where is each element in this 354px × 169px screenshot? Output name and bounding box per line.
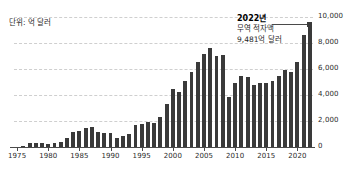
annotation-label: 무역 적자액 bbox=[237, 24, 309, 35]
x-tick-label-1980: 1980 bbox=[39, 153, 57, 160]
x-tick-mark-2010 bbox=[235, 148, 236, 151]
bar-2014 bbox=[258, 83, 262, 147]
bar-2011 bbox=[239, 76, 243, 147]
bar-1991 bbox=[115, 138, 119, 147]
bar-1983 bbox=[65, 138, 69, 147]
x-tick-mark-2020 bbox=[297, 148, 298, 151]
x-axis: 1975198019851990199520002005201020152020 bbox=[0, 148, 354, 169]
y-axis: 02,0004,0006,0008,00010,000 bbox=[318, 0, 354, 169]
x-tick-mark-1975 bbox=[17, 148, 18, 151]
bar-2007 bbox=[215, 56, 219, 147]
bar-2015 bbox=[264, 83, 268, 147]
bar-2019 bbox=[289, 72, 293, 147]
annotation-leader-marker bbox=[307, 22, 312, 27]
x-tick-label-1975: 1975 bbox=[8, 153, 26, 160]
bar-2020 bbox=[295, 62, 299, 147]
bar-2002 bbox=[183, 81, 187, 147]
bar-1986 bbox=[84, 128, 88, 147]
bar-2000 bbox=[171, 89, 175, 147]
bar-2001 bbox=[177, 92, 181, 147]
bar-2005 bbox=[202, 54, 206, 147]
bar-1988 bbox=[96, 132, 100, 147]
x-tick-mark-2005 bbox=[204, 148, 205, 151]
x-tick-mark-2015 bbox=[266, 148, 267, 151]
bar-2004 bbox=[196, 62, 200, 147]
x-tick-mark-1980 bbox=[48, 148, 49, 151]
x-tick-label-2010: 2010 bbox=[226, 153, 244, 160]
bar-1994 bbox=[134, 125, 138, 147]
bar-1998 bbox=[158, 117, 162, 147]
annotation-leader-line bbox=[272, 24, 307, 25]
bar-1987 bbox=[90, 127, 94, 147]
x-tick-label-2020: 2020 bbox=[288, 153, 306, 160]
bar-2010 bbox=[233, 83, 237, 147]
x-tick-label-1985: 1985 bbox=[70, 153, 88, 160]
bar-1996 bbox=[146, 122, 150, 147]
y-tick-label-2000: 2,000 bbox=[318, 117, 339, 124]
bar-1997 bbox=[152, 123, 156, 147]
annotation-year: 2022년 bbox=[237, 14, 309, 24]
bar-1995 bbox=[140, 124, 144, 147]
x-tick-label-2015: 2015 bbox=[257, 153, 275, 160]
bar-1984 bbox=[71, 132, 75, 147]
x-tick-mark-1990 bbox=[111, 148, 112, 151]
bar-2009 bbox=[227, 97, 231, 147]
bar-1992 bbox=[121, 136, 125, 147]
bar-2016 bbox=[271, 81, 275, 147]
y-tick-label-4000: 4,000 bbox=[318, 91, 339, 98]
bar-2006 bbox=[208, 48, 212, 147]
x-tick-mark-2000 bbox=[173, 148, 174, 151]
x-tick-label-1990: 1990 bbox=[101, 153, 119, 160]
annotation-value: 9,481억 달러 bbox=[237, 35, 309, 46]
x-tick-label-2000: 2000 bbox=[164, 153, 182, 160]
annotation-callout: 2022년 무역 적자액 9,481억 달러 bbox=[237, 14, 309, 46]
y-tick-label-10000: 10,000 bbox=[318, 13, 343, 20]
bar-2013 bbox=[252, 85, 256, 147]
bar-2012 bbox=[246, 77, 250, 147]
x-tick-mark-1995 bbox=[142, 148, 143, 151]
bar-2018 bbox=[283, 70, 287, 147]
bar-1985 bbox=[77, 131, 81, 147]
bar-1993 bbox=[127, 134, 131, 147]
x-tick-label-1995: 1995 bbox=[133, 153, 151, 160]
y-tick-label-8000: 8,000 bbox=[318, 39, 339, 46]
bar-2017 bbox=[277, 76, 281, 148]
x-tick-mark-1985 bbox=[79, 148, 80, 151]
bar-1990 bbox=[109, 133, 113, 147]
bar-2003 bbox=[190, 72, 194, 147]
x-tick-label-2005: 2005 bbox=[195, 153, 213, 160]
bar-1999 bbox=[165, 104, 169, 147]
bar-1989 bbox=[102, 133, 106, 147]
y-tick-label-6000: 6,000 bbox=[318, 65, 339, 72]
bar-2021 bbox=[302, 35, 306, 147]
bar-2008 bbox=[221, 55, 225, 147]
trade-deficit-bar-chart: 단위: 억 달러 02,0004,0006,0008,00010,000 197… bbox=[0, 0, 354, 169]
